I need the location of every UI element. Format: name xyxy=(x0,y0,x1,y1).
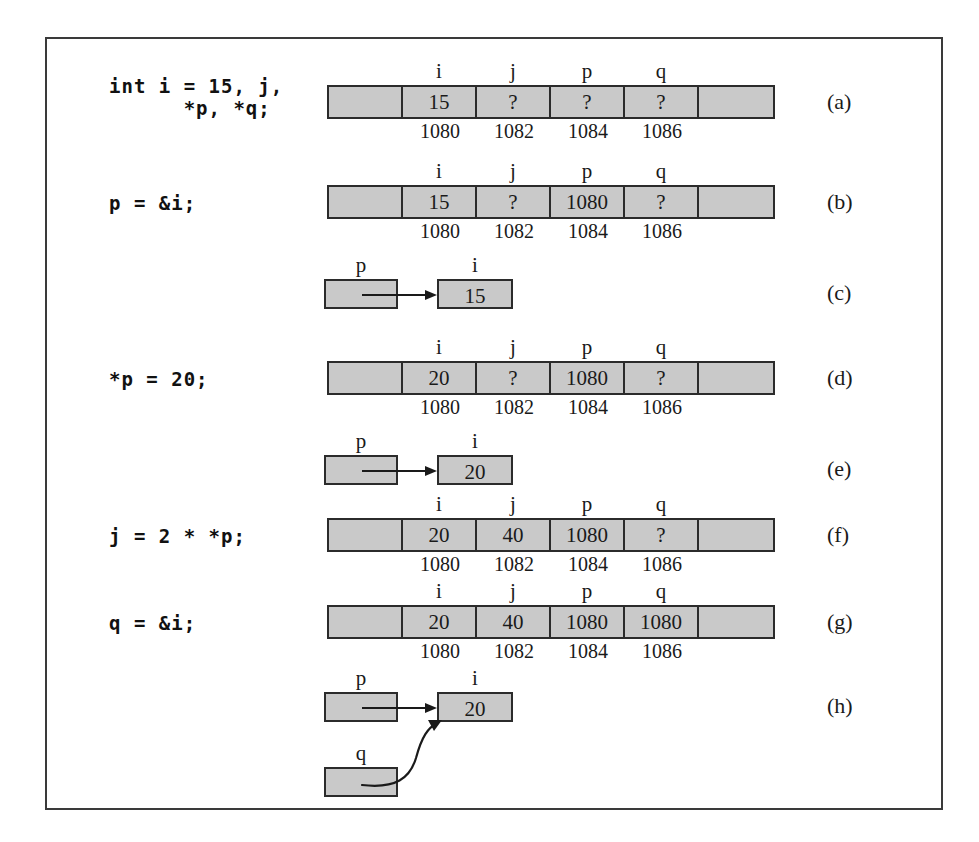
memory-row-a: i 15 1080 j ? 1082 p ? 1084 q ? 1086 xyxy=(327,85,775,119)
memory-cell-value: ? xyxy=(508,366,517,390)
memory-cell-value: 40 xyxy=(503,523,524,547)
panel-label-b: (b) xyxy=(827,189,853,215)
address-label: 1086 xyxy=(619,639,705,663)
memory-cell-value: 1080 xyxy=(566,190,608,214)
memory-cell xyxy=(699,607,773,637)
pointer-target-value: 20 xyxy=(465,697,486,721)
memory-cell-j: j 40 1082 xyxy=(477,520,551,550)
var-label-j: j xyxy=(477,492,549,516)
var-label-q: q xyxy=(625,335,697,359)
pointer-box-p-e: p xyxy=(324,455,398,485)
memory-cell-value: 40 xyxy=(503,610,524,634)
panel-label-g: (g) xyxy=(827,609,853,635)
memory-cell-q: q ? 1086 xyxy=(625,187,699,217)
memory-cell xyxy=(329,607,403,637)
code-snippet-g: q = &i; xyxy=(109,612,196,634)
memory-cell-value: ? xyxy=(656,366,665,390)
pointer-box-p-h: p xyxy=(324,692,398,722)
memory-cell-value: 15 xyxy=(429,90,450,114)
memory-cell-value: ? xyxy=(656,90,665,114)
memory-cell-j: j ? 1082 xyxy=(477,363,551,393)
panel-label-e: (e) xyxy=(827,456,851,482)
memory-cell xyxy=(699,363,773,393)
var-label-j: j xyxy=(477,579,549,603)
var-label-p: p xyxy=(326,666,396,690)
memory-cell-j: j ? 1082 xyxy=(477,187,551,217)
memory-cell-q: q ? 1086 xyxy=(625,363,699,393)
var-label-p: p xyxy=(551,579,623,603)
memory-cell-q: q ? 1086 xyxy=(625,520,699,550)
address-label: 1086 xyxy=(619,119,705,143)
memory-cell-value: 1080 xyxy=(566,523,608,547)
memory-row-b: i 15 1080 j ? 1082 p 1080 1084 q ? 1086 xyxy=(327,185,775,219)
var-label-p: p xyxy=(326,253,396,277)
var-label-q: q xyxy=(625,159,697,183)
memory-cell-value: ? xyxy=(656,523,665,547)
address-label: 1086 xyxy=(619,395,705,419)
memory-cell-value: ? xyxy=(508,190,517,214)
memory-cell xyxy=(699,187,773,217)
pointer-box-p-c: p xyxy=(324,279,398,309)
var-label-j: j xyxy=(477,159,549,183)
pointer-box-q-h: q xyxy=(324,767,398,797)
memory-cell xyxy=(329,520,403,550)
pointer-target-box-i-c: i 15 xyxy=(437,279,513,309)
pointer-target-value: 20 xyxy=(465,460,486,484)
memory-row-f: i 20 1080 j 40 1082 p 1080 1084 q ? 1086 xyxy=(327,518,775,552)
panel-label-c: (c) xyxy=(827,280,851,306)
var-label-p: p xyxy=(326,429,396,453)
pointer-target-box-i-h: i 20 xyxy=(437,692,513,722)
memory-cell xyxy=(329,87,403,117)
var-label-q: q xyxy=(625,579,697,603)
var-label-q: q xyxy=(625,59,697,83)
memory-cell-value: ? xyxy=(656,190,665,214)
var-label-p: p xyxy=(551,159,623,183)
code-snippet-d: *p = 20; xyxy=(109,368,209,390)
memory-cell-p: p ? 1084 xyxy=(551,87,625,117)
var-label-p: p xyxy=(551,59,623,83)
memory-cell-value: 20 xyxy=(429,523,450,547)
memory-cell-q: q 1080 1086 xyxy=(625,607,699,637)
var-label-i: i xyxy=(439,253,511,277)
memory-cell-value: 20 xyxy=(429,610,450,634)
var-label-i: i xyxy=(439,666,511,690)
memory-cell-q: q ? 1086 xyxy=(625,87,699,117)
pointer-target-value: 15 xyxy=(465,284,486,308)
memory-cell-p: p 1080 1084 xyxy=(551,520,625,550)
memory-cell xyxy=(329,363,403,393)
var-label-p: p xyxy=(551,492,623,516)
memory-cell-value: 1080 xyxy=(640,610,682,634)
var-label-i: i xyxy=(439,429,511,453)
var-label-i: i xyxy=(403,492,475,516)
panel-label-f: (f) xyxy=(827,522,849,548)
panel-label-d: (d) xyxy=(827,365,853,391)
memory-cell-p: p 1080 1084 xyxy=(551,187,625,217)
memory-cell-i: i 20 1080 xyxy=(403,363,477,393)
memory-cell-value: 15 xyxy=(429,190,450,214)
memory-cell-i: i 20 1080 xyxy=(403,520,477,550)
memory-cell-value: 1080 xyxy=(566,610,608,634)
panel-label-h: (h) xyxy=(827,693,853,719)
memory-cell-i: i 20 1080 xyxy=(403,607,477,637)
var-label-i: i xyxy=(403,579,475,603)
memory-cell xyxy=(329,187,403,217)
memory-row-d: i 20 1080 j ? 1082 p 1080 1084 q ? 1086 xyxy=(327,361,775,395)
var-label-j: j xyxy=(477,335,549,359)
code-snippet-f: j = 2 * *p; xyxy=(109,525,246,547)
figure-frame: int i = 15, j, *p, *q; i 15 1080 j ? 108… xyxy=(45,37,943,810)
memory-cell-j: j ? 1082 xyxy=(477,87,551,117)
memory-cell-p: p 1080 1084 xyxy=(551,607,625,637)
code-snippet-b: p = &i; xyxy=(109,192,196,214)
memory-cell-i: i 15 1080 xyxy=(403,187,477,217)
code-snippet-a: int i = 15, j, *p, *q; xyxy=(109,75,283,119)
var-label-i: i xyxy=(403,59,475,83)
var-label-q: q xyxy=(326,741,396,765)
var-label-q: q xyxy=(625,492,697,516)
memory-row-g: i 20 1080 j 40 1082 p 1080 1084 q 1080 1… xyxy=(327,605,775,639)
memory-cell-value: 20 xyxy=(429,366,450,390)
panel-label-a: (a) xyxy=(827,89,851,115)
address-label: 1086 xyxy=(619,219,705,243)
memory-cell-value: ? xyxy=(582,90,591,114)
memory-cell-value: ? xyxy=(508,90,517,114)
var-label-i: i xyxy=(403,335,475,359)
